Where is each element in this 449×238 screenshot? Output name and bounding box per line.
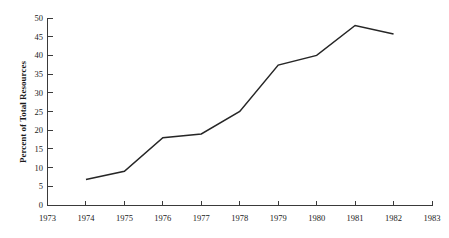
- y-tick-label-5: 5: [39, 181, 43, 191]
- x-tick-label-1982: 1982: [385, 213, 402, 223]
- y-tick-label-25: 25: [35, 107, 44, 117]
- line-chart: 05101520253035404550 1973197419751976197…: [0, 0, 449, 238]
- x-tick-label-1974: 1974: [77, 213, 95, 223]
- y-tick-label-40: 40: [35, 50, 44, 60]
- y-tick-label-35: 35: [35, 69, 44, 79]
- y-axis-title: Percent of Total Resources: [18, 61, 28, 163]
- y-tick-label-50: 50: [35, 13, 44, 23]
- x-tick-label-1983: 1983: [424, 213, 441, 223]
- x-tick-label-1977: 1977: [193, 213, 210, 223]
- y-tick-label-10: 10: [35, 163, 44, 173]
- y-tick-label-0: 0: [39, 200, 43, 210]
- x-tick-label-1978: 1978: [231, 213, 248, 223]
- y-tick-label-45: 45: [35, 32, 44, 42]
- chart-canvas: 05101520253035404550 1973197419751976197…: [0, 0, 449, 238]
- chart-background: [0, 0, 449, 238]
- x-tick-label-1979: 1979: [270, 213, 287, 223]
- y-tick-label-20: 20: [35, 125, 44, 135]
- x-tick-label-1980: 1980: [308, 213, 325, 223]
- x-tick-label-1981: 1981: [347, 213, 364, 223]
- y-tick-label-15: 15: [35, 144, 44, 154]
- y-tick-label-30: 30: [35, 88, 44, 98]
- x-tick-label-1973: 1973: [39, 213, 56, 223]
- x-tick-label-1976: 1976: [154, 213, 171, 223]
- x-tick-label-1975: 1975: [116, 213, 133, 223]
